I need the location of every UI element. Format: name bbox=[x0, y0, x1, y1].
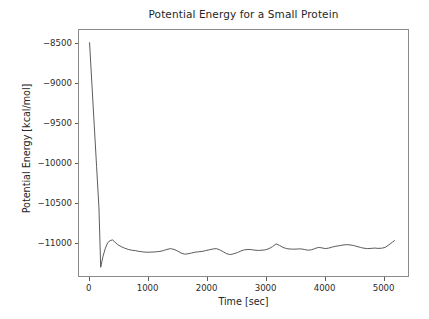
x-tick-label: 4000 bbox=[314, 283, 336, 293]
chart-title: Potential Energy for a Small Protein bbox=[78, 8, 409, 20]
x-tick-label: 3000 bbox=[255, 283, 277, 293]
y-tick-mark bbox=[75, 123, 79, 124]
x-tick-mark bbox=[148, 277, 149, 281]
y-tick-mark bbox=[75, 243, 79, 244]
x-tick-mark bbox=[207, 277, 208, 281]
chart-figure: Potential Energy for a Small Protein −85… bbox=[0, 0, 429, 319]
y-tick-mark bbox=[75, 83, 79, 84]
y-tick-mark bbox=[75, 203, 79, 204]
x-tick-mark bbox=[325, 277, 326, 281]
y-tick-mark bbox=[75, 163, 79, 164]
y-tick-label: −8500 bbox=[12, 38, 72, 48]
x-axis-label: Time [sec] bbox=[78, 296, 409, 307]
x-tick-mark bbox=[384, 277, 385, 281]
y-axis-label: Potential Energy [kcal/mol] bbox=[21, 49, 32, 249]
x-tick-label: 1000 bbox=[137, 283, 159, 293]
x-tick-label: 5000 bbox=[373, 283, 395, 293]
y-tick-mark bbox=[75, 43, 79, 44]
x-tick-mark bbox=[89, 277, 90, 281]
line-series-potential-energy bbox=[79, 30, 408, 276]
plot-area bbox=[78, 29, 409, 277]
x-tick-mark bbox=[266, 277, 267, 281]
x-tick-label: 2000 bbox=[196, 283, 218, 293]
x-tick-label: 0 bbox=[86, 283, 91, 293]
series-polyline bbox=[90, 43, 395, 268]
